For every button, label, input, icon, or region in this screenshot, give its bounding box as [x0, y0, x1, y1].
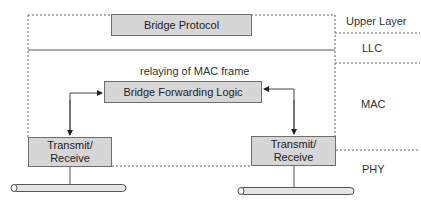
- bridge-protocol-label: Bridge Protocol: [144, 19, 219, 32]
- bridge-forwarding-logic-box: Bridge Forwarding Logic: [104, 81, 262, 103]
- layer-label-llc: LLC: [362, 42, 382, 54]
- transmit-receive-right-box: Transmit/ Receive: [251, 136, 336, 166]
- bridge-forwarding-logic-label: Bridge Forwarding Logic: [123, 86, 242, 99]
- transmit-receive-left-line1: Transmit/: [47, 139, 92, 152]
- transmit-receive-right-line2: Receive: [274, 151, 314, 164]
- transmit-receive-left-line2: Receive: [50, 152, 90, 165]
- layer-label-upper: Upper Layer: [346, 15, 407, 27]
- layer-label-mac: MAC: [361, 98, 385, 110]
- right-lan-cable: [238, 188, 354, 195]
- transmit-receive-left-box: Transmit/ Receive: [28, 137, 112, 167]
- transmit-receive-right-line1: Transmit/: [271, 138, 316, 151]
- right-to-forwarding-arrow: [264, 89, 294, 131]
- bridge-diagram: Bridge Protocol relaying of MAC frame Br…: [0, 0, 421, 211]
- left-to-forwarding-arrow: [70, 93, 102, 131]
- relaying-annotation: relaying of MAC frame: [140, 65, 249, 77]
- left-lan-cable: [11, 185, 126, 192]
- bridge-protocol-box: Bridge Protocol: [111, 14, 252, 36]
- layer-label-phy: PHY: [362, 163, 385, 175]
